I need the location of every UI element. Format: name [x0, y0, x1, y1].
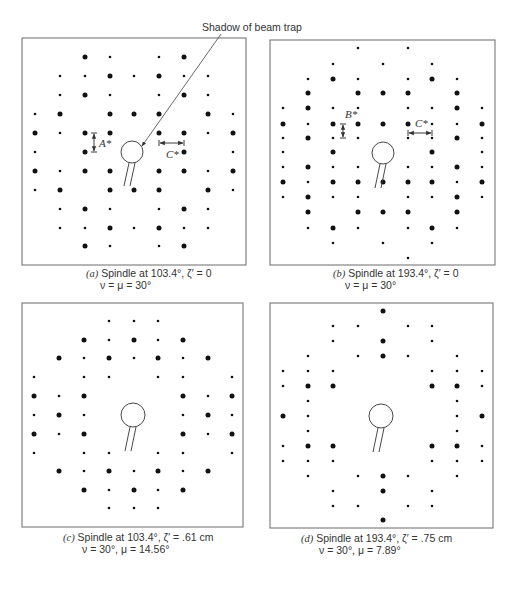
spot-weak — [33, 414, 36, 417]
beam-trap-shadow — [121, 141, 143, 186]
spot-weak — [133, 75, 136, 78]
spot-weak — [407, 227, 410, 230]
spot-weak — [157, 489, 160, 492]
spot-strong — [108, 131, 113, 136]
spot-weak — [183, 227, 186, 230]
spot-strong — [406, 122, 411, 127]
callout-text: Shadow of beam trap — [202, 21, 302, 33]
spot-strong — [455, 106, 460, 111]
panel-caption: (b) Spindle at 193.4°, ζ′ = 0ν = μ = 30° — [333, 267, 459, 291]
spot-weak — [332, 166, 335, 169]
spot-weak — [431, 123, 434, 126]
spot-strong — [356, 122, 361, 127]
spot-weak — [207, 75, 210, 78]
spot-weak — [307, 227, 310, 230]
spot-strong — [107, 356, 112, 361]
spot-strong — [83, 207, 88, 212]
spot-weak — [456, 400, 459, 403]
spot-weak — [307, 415, 310, 418]
spot-weak — [407, 355, 410, 358]
spot-weak — [158, 56, 161, 59]
spot-weak — [133, 470, 136, 473]
spot-strong — [157, 112, 162, 117]
panel-caption: (c) Spindle at 103.4°, ζ′ = .61 cmν = 30… — [63, 531, 214, 555]
spot-weak — [108, 376, 111, 379]
spot-weak — [207, 395, 210, 398]
spot-weak — [231, 414, 234, 417]
spot-weak — [157, 320, 160, 323]
spot-strong — [331, 384, 336, 389]
spot-weak — [282, 137, 285, 140]
spot-weak — [84, 227, 87, 230]
spot-weak — [431, 340, 434, 343]
spot-strong — [132, 488, 137, 493]
diffraction-figure: A*C*(a) Spindle at 103.4°, ζ′ = 0ν = μ =… — [0, 0, 518, 589]
spot-weak — [431, 196, 434, 199]
panel-label: (b) — [333, 268, 346, 280]
spot-strong — [132, 112, 137, 117]
caption-line-2: ν = 30°, μ = 7.89° — [319, 544, 401, 556]
spot-weak — [34, 113, 37, 116]
panel-b: B*C*(b) Spindle at 193.4°, ζ′ = 0ν = μ =… — [270, 40, 495, 291]
spot-weak — [431, 505, 434, 508]
spot-weak — [481, 151, 484, 154]
spot-weak — [108, 320, 111, 323]
spot-strong — [83, 93, 88, 98]
beam-trap-stem — [130, 163, 135, 186]
spot-weak — [481, 445, 484, 448]
spot-weak — [407, 505, 410, 508]
spot-weak — [58, 395, 61, 398]
spot-weak — [183, 75, 186, 78]
spot-weak — [307, 460, 310, 463]
spot-weak — [332, 370, 335, 373]
diffraction-spots — [33, 55, 236, 249]
panel-a: A*C*(a) Spindle at 103.4°, ζ′ = 0ν = μ =… — [22, 38, 246, 291]
spot-weak — [407, 196, 410, 199]
beam-trap-disc — [121, 403, 145, 427]
spot-strong — [306, 384, 311, 389]
spot-strong — [108, 226, 113, 231]
spot-weak — [108, 339, 111, 342]
spot-strong — [82, 488, 87, 493]
spot-strong — [32, 432, 37, 437]
spot-strong — [356, 210, 361, 215]
spot-weak — [407, 475, 410, 478]
spot-strong — [455, 165, 460, 170]
spot-weak — [157, 339, 160, 342]
panel-c: (c) Spindle at 103.4°, ζ′ = .61 cmν = 30… — [22, 303, 243, 555]
spot-weak — [407, 107, 410, 110]
spot-weak — [83, 470, 86, 473]
spot-weak — [332, 196, 335, 199]
spot-weak — [83, 414, 86, 417]
spot-weak — [456, 78, 459, 81]
spot-strong — [406, 91, 411, 96]
panel-caption: (d) Spindle at 193.4°, ζ′ = .75 cmν = 30… — [301, 532, 452, 556]
spot-weak — [133, 227, 136, 230]
spot-strong — [182, 169, 187, 174]
spot-strong — [381, 354, 386, 359]
spot-weak — [357, 166, 360, 169]
spot-weak — [109, 56, 112, 59]
spot-weak — [407, 78, 410, 81]
spot-strong — [108, 169, 113, 174]
spot-weak — [108, 507, 111, 510]
spot-weak — [456, 355, 459, 358]
spot-weak — [83, 452, 86, 455]
spot-strong — [33, 169, 38, 174]
spot-weak — [456, 227, 459, 230]
spot-strong — [230, 432, 235, 437]
dimension-label: B* — [345, 108, 358, 120]
caption-line-2: ν = μ = 30° — [345, 279, 396, 291]
spot-weak — [332, 325, 335, 328]
spot-weak — [307, 181, 310, 184]
spot-weak — [307, 370, 310, 373]
spot-weak — [33, 376, 36, 379]
spot-weak — [456, 123, 459, 126]
spot-weak — [332, 505, 335, 508]
beam-trap-disc — [369, 404, 393, 428]
spot-strong — [455, 384, 460, 389]
spot-weak — [33, 452, 36, 455]
panel-label: (c) — [63, 532, 75, 544]
spot-weak — [157, 507, 160, 510]
spot-weak — [481, 370, 484, 373]
